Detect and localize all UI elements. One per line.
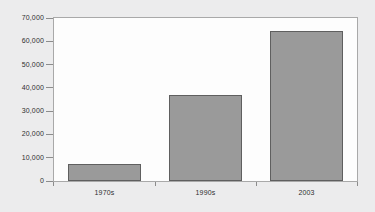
- y-axis-tick-mark: [46, 134, 53, 135]
- x-axis-tick-mark: [256, 182, 257, 186]
- y-axis-tick-label: 60,000: [22, 35, 44, 47]
- y-axis-tick-mark: [46, 181, 53, 182]
- bars-layer: [54, 18, 357, 181]
- y-axis-tick-mark: [46, 64, 53, 65]
- y-axis-tick: 20,000: [0, 128, 53, 140]
- y-axis-tick-mark: [46, 157, 53, 158]
- y-axis-tick-label: 10,000: [22, 152, 44, 164]
- x-axis-tick-mark: [357, 182, 358, 186]
- y-axis-tick: 50,000: [0, 59, 53, 71]
- y-axis-tick-label: 70,000: [22, 12, 44, 24]
- y-axis-tick-mark: [46, 41, 53, 42]
- y-axis-tick: 10,000: [0, 152, 53, 164]
- y-axis-tick-label: 40,000: [22, 82, 44, 94]
- y-axis-tick: 60,000: [0, 35, 53, 47]
- bar-slot: [270, 18, 343, 181]
- y-axis-tick-mark: [46, 87, 53, 88]
- y-axis-tick-label: 30,000: [22, 105, 44, 117]
- y-axis-tick: 70,000: [0, 12, 53, 24]
- bar-slot: [169, 18, 242, 181]
- x-axis: 1970s1990s2003: [54, 182, 357, 206]
- y-axis-tick-mark: [46, 18, 53, 19]
- x-axis-tick-label: 2003: [256, 189, 357, 196]
- y-axis-tick: 0: [0, 175, 53, 187]
- bar-chart-figure: 010,00020,00030,00040,00050,00060,00070,…: [0, 0, 375, 212]
- bar-1970s: [68, 164, 141, 181]
- x-axis-tick-label: 1990s: [155, 189, 256, 196]
- y-axis: 010,00020,00030,00040,00050,00060,00070,…: [0, 0, 53, 212]
- y-axis-tick: 30,000: [0, 105, 53, 117]
- y-axis-tick-label: 20,000: [22, 128, 44, 140]
- y-axis-tick: 40,000: [0, 82, 53, 94]
- bar-2003: [270, 31, 343, 181]
- y-axis-tick-label: 50,000: [22, 59, 44, 71]
- x-axis-tick-mark: [155, 182, 156, 186]
- bar-slot: [68, 18, 141, 181]
- bar-1990s: [169, 95, 242, 181]
- x-axis-tick-label: 1970s: [54, 189, 155, 196]
- y-axis-tick-label: 0: [40, 175, 44, 187]
- y-axis-tick-mark: [46, 111, 53, 112]
